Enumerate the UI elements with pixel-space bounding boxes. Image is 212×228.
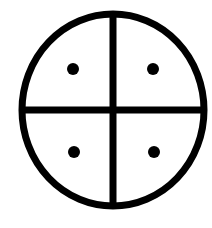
- quartered-circle-icon: [0, 0, 212, 228]
- dot-top-left: [67, 63, 79, 75]
- symbol-canvas: [0, 0, 212, 228]
- dot-bottom-left: [68, 146, 80, 158]
- dot-top-right: [147, 63, 159, 75]
- dot-bottom-right: [148, 146, 160, 158]
